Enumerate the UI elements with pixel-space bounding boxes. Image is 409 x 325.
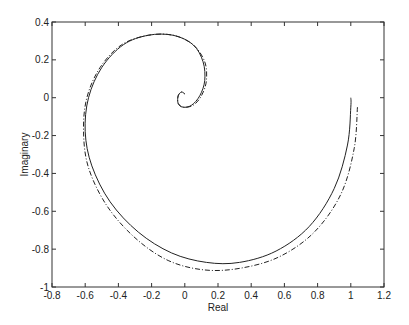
y-tick-label: 0.2 — [35, 54, 49, 65]
y-tick-label: -0.2 — [32, 130, 50, 141]
x-tick-label: 1 — [348, 290, 354, 301]
y-tick-label: -0.6 — [32, 206, 50, 217]
x-tick-label: 0.2 — [211, 290, 225, 301]
y-tick-label: -0.8 — [32, 244, 50, 255]
x-tick-label: 0.6 — [277, 290, 291, 301]
x-tick-label: 0.4 — [244, 290, 258, 301]
y-tick-label: 0.4 — [35, 17, 49, 28]
nyquist-chart: -0.8-0.6-0.4-0.200.20.40.60.811.2 0.40.2… — [0, 0, 409, 325]
x-axis-label: Real — [208, 302, 229, 313]
chart-background — [0, 0, 409, 325]
y-axis-label: Imaginary — [19, 133, 30, 177]
x-tick-label: -0.6 — [77, 290, 95, 301]
y-tick-label: -0.4 — [32, 168, 50, 179]
x-tick-label: 1.2 — [377, 290, 391, 301]
y-tick-label: -1 — [40, 282, 49, 293]
x-tick-label: -0.2 — [143, 290, 161, 301]
x-tick-label: 0.8 — [311, 290, 325, 301]
y-tick-label: 0 — [43, 92, 49, 103]
x-tick-label: -0.4 — [110, 290, 128, 301]
x-tick-label: 0 — [182, 290, 188, 301]
